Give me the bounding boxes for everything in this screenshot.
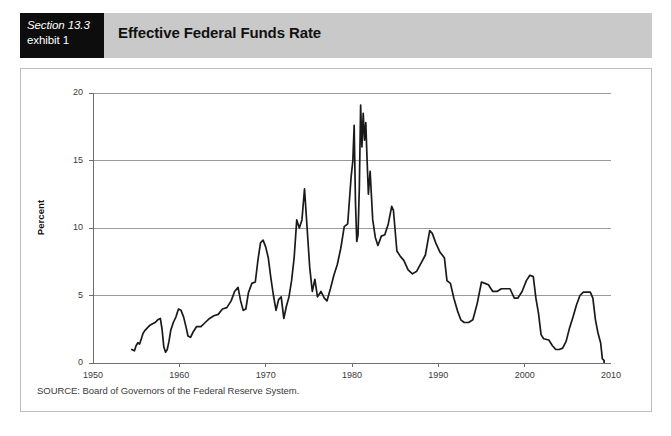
- header-band: [20, 13, 652, 58]
- x-tick-label: 2000: [505, 370, 545, 380]
- source-note: SOURCE: Board of Governors of the Federa…: [37, 385, 299, 396]
- page-title: Effective Federal Funds Rate: [118, 24, 321, 41]
- y-axis-label: Percent: [35, 173, 46, 263]
- y-tick-label: 15: [57, 155, 83, 165]
- exhibit-figure: Section 13.3 exhibit 1 Effective Federal…: [0, 0, 671, 436]
- chart-panel: [20, 68, 652, 412]
- y-tick-label: 10: [57, 222, 83, 232]
- exhibit-number: exhibit 1: [27, 33, 104, 48]
- y-tick-label: 20: [57, 87, 83, 97]
- y-tick-label: 5: [57, 290, 83, 300]
- x-tick-label: 1990: [418, 370, 458, 380]
- x-tick-label: 1980: [332, 370, 372, 380]
- section-badge: Section 13.3 exhibit 1: [20, 13, 104, 58]
- x-tick-label: 1970: [246, 370, 286, 380]
- section-number: Section 13.3: [27, 18, 104, 33]
- x-tick-label: 2010: [591, 370, 631, 380]
- x-tick-label: 1960: [159, 370, 199, 380]
- y-tick-label: 0: [57, 357, 83, 367]
- x-tick-label: 1950: [73, 370, 113, 380]
